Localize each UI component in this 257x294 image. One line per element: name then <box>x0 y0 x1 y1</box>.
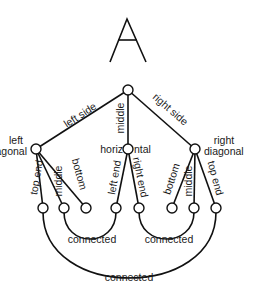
label-left-side: left side <box>61 100 98 130</box>
node-ld-middle <box>59 203 69 213</box>
arc-connected-outer <box>43 212 216 278</box>
label-right-side: right side <box>151 90 191 127</box>
node-rd-middle <box>189 203 199 213</box>
label-connected-right: connected <box>145 233 194 245</box>
label-left-diagonal-2: diagonal <box>0 145 27 157</box>
node-h-right-end <box>134 203 144 213</box>
label-ld-bottom: bottom <box>70 157 90 191</box>
label-right-diagonal-2: diagonal <box>204 145 244 157</box>
node-rd-bottom <box>167 203 177 213</box>
node-left-diagonal <box>31 144 41 154</box>
node-ld-bottom <box>81 203 91 213</box>
label-horizontal-b: ntal <box>134 143 151 155</box>
letter-a-glyph <box>110 19 146 62</box>
label-connected-left: connected <box>68 233 117 245</box>
node-ld-top-end <box>38 203 48 213</box>
node-root <box>123 85 133 95</box>
label-middle: middle <box>114 102 126 133</box>
label-rd-top-end: top end <box>206 159 227 196</box>
label-ld-top-end: top end <box>27 159 45 196</box>
node-right-diagonal <box>190 144 200 154</box>
node-rd-top-end <box>211 203 221 213</box>
node-h-left-end <box>111 203 121 213</box>
label-horizontal-a: horiz <box>100 143 123 155</box>
label-rd-middle: middle <box>182 165 194 196</box>
node-horizontal <box>123 144 133 154</box>
label-ld-middle: middle <box>52 165 64 196</box>
letter-a-structure-diagram: left diagonal horiz ntal right diagonal … <box>0 0 257 294</box>
edge-rd-middle <box>194 149 195 208</box>
label-connected-outer: connected <box>105 271 154 283</box>
